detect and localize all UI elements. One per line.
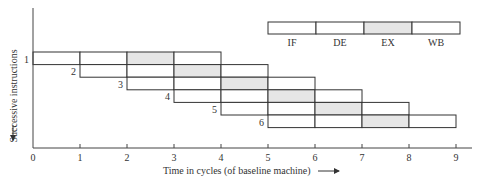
stage-cell-de xyxy=(221,90,268,103)
x-axis-ticks: 0123456789 xyxy=(31,144,459,163)
tick-label: 1 xyxy=(78,152,83,163)
legend-stage-box xyxy=(316,22,364,34)
instruction-row: 1 xyxy=(24,52,221,65)
tick-label: 5 xyxy=(266,152,271,163)
stage-cell-wb xyxy=(268,77,315,90)
stage-cell-ex xyxy=(174,65,221,78)
stage-cell-ex xyxy=(362,115,409,128)
x-axis-label: Time in cycles (of baseline machine) xyxy=(163,165,311,177)
stage-cell-wb xyxy=(409,115,456,128)
legend-stage-box xyxy=(412,22,460,34)
instruction-label: 2 xyxy=(71,66,76,77)
stage-cell-wb xyxy=(174,52,221,65)
legend-stage-label: EX xyxy=(381,37,395,48)
instruction-label: 3 xyxy=(118,79,123,90)
tick-label: 2 xyxy=(125,152,130,163)
instruction-label: 4 xyxy=(165,91,170,102)
tick-label: 8 xyxy=(407,152,412,163)
instruction-rows: 123456 xyxy=(24,52,456,128)
legend-stage-label: IF xyxy=(288,37,297,48)
legend-stage-box xyxy=(268,22,316,34)
stage-cell-if xyxy=(174,90,221,103)
tick-label: 3 xyxy=(172,152,177,163)
stage-cell-wb xyxy=(221,65,268,78)
tick-label: 0 xyxy=(31,152,36,163)
stage-cell-if xyxy=(221,102,268,115)
legend-stage-box xyxy=(364,22,412,34)
stage-cell-if xyxy=(268,115,315,128)
tick-label: 4 xyxy=(219,152,224,163)
instruction-row: 5 xyxy=(212,102,409,115)
stage-cell-ex xyxy=(221,77,268,90)
stage-cell-ex xyxy=(268,90,315,103)
stage-cell-ex xyxy=(315,102,362,115)
stage-cell-de xyxy=(127,65,174,78)
instruction-row: 2 xyxy=(71,65,268,78)
stage-legend: IFDEEXWB xyxy=(268,22,460,48)
instruction-label: 1 xyxy=(24,54,29,65)
instruction-label: 5 xyxy=(212,104,217,115)
legend-stage-label: DE xyxy=(333,37,346,48)
instruction-row: 4 xyxy=(165,90,362,103)
stage-cell-wb xyxy=(362,102,409,115)
tick-label: 6 xyxy=(313,152,318,163)
tick-label: 9 xyxy=(454,152,459,163)
instruction-label: 6 xyxy=(259,117,264,128)
stage-cell-if xyxy=(80,65,127,78)
stage-cell-if xyxy=(127,77,174,90)
legend-stage-label: WB xyxy=(428,37,444,48)
tick-label: 7 xyxy=(360,152,365,163)
stage-cell-if xyxy=(33,52,80,65)
stage-cell-wb xyxy=(315,90,362,103)
instruction-row: 6 xyxy=(259,115,456,128)
stage-cell-ex xyxy=(127,52,174,65)
pipeline-diagram: IFDEEXWB 123456 0123456789 Successive in… xyxy=(0,0,480,191)
stage-cell-de xyxy=(315,115,362,128)
stage-cell-de xyxy=(174,77,221,90)
stage-cell-de xyxy=(268,102,315,115)
stage-cell-de xyxy=(80,52,127,65)
instruction-row: 3 xyxy=(118,77,315,90)
